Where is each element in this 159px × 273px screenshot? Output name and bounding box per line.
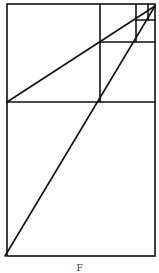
- line-diag-lower: [5, 6, 155, 256]
- line-diag-upper: [7, 6, 155, 102]
- figure-caption: F: [0, 263, 159, 273]
